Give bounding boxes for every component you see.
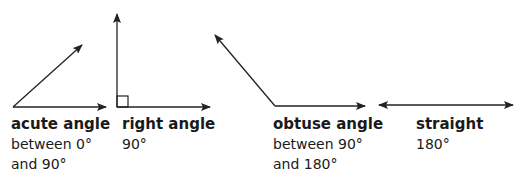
right-angle-measure: 90°: [122, 134, 215, 154]
acute-angle-range-1: between 0°: [11, 134, 110, 154]
right-angle-marker: [117, 96, 128, 107]
obtuse-angle-label: obtuse angle between 90° and 180°: [273, 114, 383, 174]
straight-angle-label: straight 180°: [416, 114, 483, 154]
acute-angle-title: acute angle: [11, 114, 110, 134]
acute-angle-range-2: and 90°: [11, 154, 110, 174]
obtuse-angle-range-2: and 180°: [273, 154, 383, 174]
straight-angle-measure: 180°: [416, 134, 483, 154]
straight-angle-title: straight: [416, 114, 483, 134]
right-angle-label: right angle 90°: [122, 114, 215, 154]
obtuse-angle-range-1: between 90°: [273, 134, 383, 154]
right-angle-figure: [117, 14, 210, 107]
right-angle-title: right angle: [122, 114, 215, 134]
obtuse-angle-figure: [215, 35, 365, 106]
acute-angle-label: acute angle between 0° and 90°: [11, 114, 110, 174]
acute-angle-figure: [13, 45, 106, 107]
obtuse-angle-title: obtuse angle: [273, 114, 383, 134]
